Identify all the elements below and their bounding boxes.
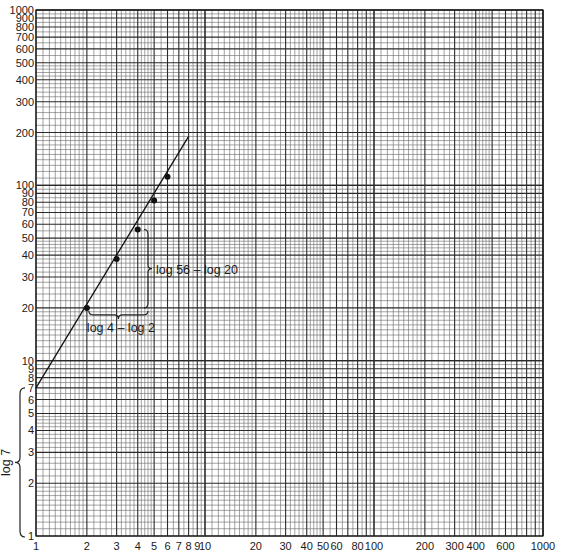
y-tick-label: 300: [16, 96, 34, 108]
x-tick-label: 3: [114, 540, 120, 552]
x-tick-label: 40: [301, 540, 313, 552]
y-axis-tick-labels: 1234567891020304050607080901002003004005…: [10, 4, 34, 542]
y-tick-label: 40: [22, 249, 34, 261]
minor-grid: [36, 10, 543, 536]
data-point: [151, 197, 157, 203]
data-points: [84, 174, 171, 311]
x-tick-label: 8: [186, 540, 192, 552]
x-tick-label: 7: [176, 540, 182, 552]
x-tick-label: 100: [365, 540, 383, 552]
y-tick-label: 100: [16, 179, 34, 191]
y-tick-label: 200: [16, 127, 34, 139]
x-tick-label: 80: [351, 540, 363, 552]
y-tick-label: 2: [28, 477, 34, 489]
y-tick-label: 4: [28, 424, 34, 436]
plot-frame: [36, 10, 543, 536]
y-tick-label: 600: [16, 43, 34, 55]
x-tick-label: 400: [467, 540, 485, 552]
y-tick-label: 30: [22, 271, 34, 283]
x-axis-tick-labels: 1234567891020304050608010020030040060010…: [33, 540, 555, 552]
x-tick-label: 300: [445, 540, 463, 552]
intercept-label: log 7: [0, 449, 13, 476]
data-point: [165, 174, 171, 180]
data-point: [84, 305, 90, 311]
y-tick-label: 20: [22, 302, 34, 314]
y-tick-label: 1000: [10, 4, 34, 16]
x-tick-label: 30: [280, 540, 292, 552]
y-tick-label: 5: [28, 407, 34, 419]
y-tick-label: 3: [28, 446, 34, 458]
x-tick-label: 4: [135, 540, 141, 552]
x-tick-label: 6: [164, 540, 170, 552]
data-point: [135, 226, 141, 232]
x-tick-label: 2: [84, 540, 90, 552]
log-log-chart: 1234567891020304050608010020030040060010…: [0, 0, 563, 560]
major-grid: [36, 10, 543, 536]
run-label: log 4 – log 2: [87, 321, 155, 335]
x-tick-label: 600: [496, 540, 514, 552]
x-tick-label: 60: [330, 540, 342, 552]
x-tick-label: 50: [317, 540, 329, 552]
y-tick-label: 400: [16, 74, 34, 86]
x-tick-label: 200: [416, 540, 434, 552]
y-tick-label: 10: [22, 355, 34, 367]
y-tick-label: 500: [16, 57, 34, 69]
x-tick-label: 5: [151, 540, 157, 552]
data-point: [114, 256, 120, 262]
x-tick-label: 1000: [531, 540, 555, 552]
x-tick-label: 20: [250, 540, 262, 552]
y-tick-label: 1: [28, 530, 34, 542]
intercept-brace: [15, 388, 25, 537]
x-tick-label: 10: [199, 540, 211, 552]
rise-label: log 56 – log 20: [156, 263, 238, 277]
y-tick-label: 50: [22, 232, 34, 244]
y-tick-label: 60: [22, 218, 34, 230]
y-tick-label: 6: [28, 394, 34, 406]
